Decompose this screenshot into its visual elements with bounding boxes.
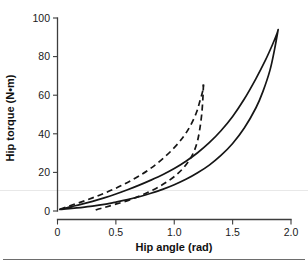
x-axis-tick-labels: 00.51.01.52.0 (55, 226, 299, 238)
y-tick-label: 80 (38, 50, 50, 62)
dashed-hysteresis-unloading-curve (95, 85, 204, 211)
chart-figure: 020406080100 00.51.01.52.0 Hip angle (ra… (0, 0, 308, 263)
y-axis-title: Hip torque (N•m) (4, 74, 16, 161)
y-tick-label: 60 (38, 89, 50, 101)
x-axis-ticks (58, 220, 292, 225)
x-tick-label: 1.5 (225, 226, 240, 238)
y-tick-label: 0 (44, 205, 50, 217)
hip-torque-angle-chart: 020406080100 00.51.01.52.0 Hip angle (ra… (0, 0, 308, 263)
solid-hysteresis-curve (60, 30, 278, 210)
y-tick-label: 40 (38, 128, 50, 140)
x-tick-label: 0 (55, 226, 61, 238)
y-tick-label: 20 (38, 166, 50, 178)
x-tick-label: 2.0 (284, 226, 299, 238)
x-axis-title: Hip angle (rad) (135, 241, 212, 253)
y-tick-label: 100 (32, 12, 50, 24)
y-axis-tick-labels: 020406080100 (32, 12, 50, 217)
x-tick-label: 1.0 (167, 226, 182, 238)
y-axis-ticks (53, 18, 58, 211)
x-tick-label: 0.5 (109, 226, 124, 238)
